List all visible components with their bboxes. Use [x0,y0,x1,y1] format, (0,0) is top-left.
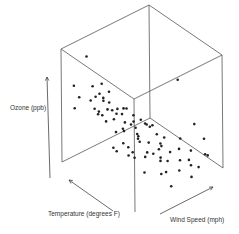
data-point [137,137,140,140]
data-point [178,148,181,151]
data-point [131,151,134,154]
data-point [170,185,173,188]
data-point [160,173,163,176]
wind-axis-arrow [160,187,213,214]
data-point [100,83,103,86]
data-point [102,97,105,100]
data-point [156,133,159,136]
ozone-axis-arrow [47,77,50,178]
data-point [113,118,116,121]
data-point [123,130,126,133]
data-point [159,142,162,145]
box-edge [61,5,149,49]
data-point [190,149,193,152]
temperature-axis-arrow [69,180,113,211]
data-point [122,107,125,110]
data-point [121,113,124,116]
data-point [73,107,76,110]
data-point [112,146,115,149]
data-point [160,145,163,148]
data-point [85,55,88,58]
data-point [122,142,125,145]
data-point [203,138,206,141]
data-point [144,122,147,125]
data-point [138,141,141,144]
data-points [73,55,209,187]
data-point [190,164,193,167]
data-point [146,151,149,154]
data-point [178,169,181,172]
box-edge [149,5,222,55]
data-point [149,126,152,129]
scatter3d-chart: Ozone (ppb) Temperature (degrees F) Wind… [0,0,239,234]
data-point [111,109,114,112]
data-point [197,166,200,169]
data-point [78,96,81,99]
data-point [188,159,191,162]
data-point [108,91,111,94]
data-point [115,150,118,153]
data-point [108,101,111,104]
data-point [165,171,168,174]
box-edge [62,118,150,162]
data-point [179,137,182,140]
box-edge [222,55,223,168]
box-edge [61,49,134,99]
data-point [159,160,162,163]
data-point [115,131,118,134]
data-point [116,108,119,111]
data-point [115,112,118,115]
data-point [93,107,96,110]
axis-arrows [45,77,213,214]
data-point [143,171,146,174]
y-axis-label: Wind Speed (mph) [170,216,224,224]
bounding-box [61,5,223,212]
data-point [73,84,76,87]
data-point [166,160,169,163]
data-point [152,153,155,156]
data-point [137,135,140,138]
data-point [127,146,130,149]
x-axis-label: Temperature (degrees F) [48,210,120,218]
data-point [105,120,108,123]
data-point [89,99,92,102]
data-point [94,96,97,99]
box-edge [149,5,150,118]
data-point [136,133,139,136]
data-point [122,128,125,131]
data-point [204,153,207,156]
data-point [133,156,136,159]
data-point [147,141,150,144]
data-point [98,93,101,96]
data-point [159,156,162,159]
data-point [130,123,133,126]
box-edge [134,55,222,99]
data-point [127,154,130,157]
data-point [132,120,135,123]
data-point [169,151,172,154]
data-point [102,100,105,103]
data-point [101,114,104,117]
data-point [176,78,179,81]
data-point [144,156,147,159]
data-point [190,176,193,179]
data-point [151,124,154,127]
data-point [158,148,161,151]
data-point [125,107,128,110]
data-point [163,136,166,139]
data-point [132,114,135,117]
data-point [124,121,127,124]
data-point [97,113,100,116]
data-point [193,123,196,126]
data-point [179,159,182,162]
data-point [206,154,209,157]
data-point [140,119,143,122]
data-point [98,110,101,113]
box-edge [61,49,62,162]
data-point [106,108,109,111]
data-point [91,85,94,88]
data-point [134,126,137,129]
z-axis-label: Ozone (ppb) [10,104,46,112]
